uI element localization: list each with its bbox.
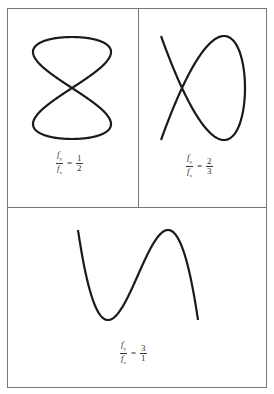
ratio-label-1-2: fyfx = 12 — [56, 150, 83, 177]
ratio-label-3-1: fyfx = 31 — [120, 340, 147, 367]
lissajous-1-2-curve — [0, 0, 274, 394]
ratio-label-2-3: fyfx = 23 — [186, 153, 213, 180]
